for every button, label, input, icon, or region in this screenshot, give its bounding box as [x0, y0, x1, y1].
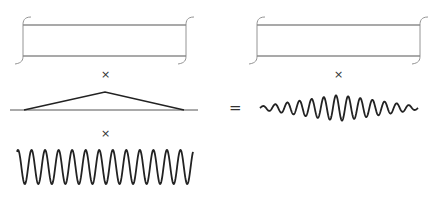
wave-packet: [260, 95, 418, 120]
equals-operator: =: [229, 101, 242, 116]
sinusoid-wave: [17, 150, 193, 184]
triangle-envelope: [10, 92, 198, 110]
right-rect-window: [249, 17, 428, 64]
multiply-operator: ×: [101, 69, 110, 80]
multiply-operator: ×: [334, 69, 343, 80]
multiply-operator: ×: [101, 128, 110, 139]
left-rect-window: [15, 17, 194, 64]
diagram-canvas: [0, 0, 435, 198]
